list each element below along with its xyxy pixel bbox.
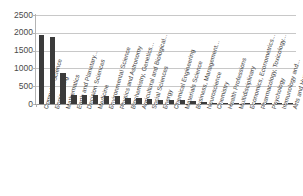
x-axis-tick-mark: [134, 104, 135, 107]
x-axis-tick-mark: [253, 104, 254, 107]
x-axis-tick-mark: [177, 104, 178, 107]
x-axis-tick-mark: [123, 104, 124, 107]
x-axis-tick-mark: [231, 104, 232, 107]
bar[interactable]: [39, 35, 44, 104]
y-axis-tick-label: 0: [3, 100, 33, 109]
y-axis-tick-mark: [32, 15, 35, 16]
gridline: [36, 51, 296, 52]
x-axis-tick-mark: [101, 104, 102, 107]
y-axis-tick-labels: 05001000150020002500: [0, 0, 33, 196]
x-axis-tick-mark: [199, 104, 200, 107]
y-axis-tick-label: 1500: [3, 46, 33, 55]
x-axis-tick-mark: [58, 104, 59, 107]
y-axis-tick-mark: [32, 33, 35, 34]
x-axis-tick-mark: [242, 104, 243, 107]
x-axis-tick-mark: [36, 104, 37, 107]
x-axis-tick-mark: [112, 104, 113, 107]
x-axis-tick-mark: [274, 104, 275, 107]
bar-chart: 05001000150020002500 Computer ScienceEng…: [0, 0, 303, 196]
x-axis-category-labels: Computer ScienceEngineeringMathematicsEa…: [36, 108, 296, 196]
y-axis-tick-mark: [32, 51, 35, 52]
gridline: [36, 15, 296, 16]
x-axis-tick-mark: [220, 104, 221, 107]
x-axis-tick-mark: [155, 104, 156, 107]
y-axis-tick-label: 500: [3, 82, 33, 91]
x-axis-tick-mark: [166, 104, 167, 107]
x-axis-tick-mark: [90, 104, 91, 107]
y-axis-tick-mark: [32, 68, 35, 69]
y-axis-tick-label: 1000: [3, 64, 33, 73]
y-axis-tick-label: 2500: [3, 11, 33, 20]
x-axis-tick-mark: [285, 104, 286, 107]
y-axis-tick-mark: [32, 104, 35, 105]
x-axis-tick-mark: [264, 104, 265, 107]
x-axis-tick-mark: [209, 104, 210, 107]
x-axis-tick-mark: [188, 104, 189, 107]
y-axis-tick-label: 2000: [3, 28, 33, 37]
y-axis-tick-mark: [32, 86, 35, 87]
x-axis-tick-mark: [69, 104, 70, 107]
x-axis-tick-mark: [296, 104, 297, 107]
x-axis-tick-mark: [79, 104, 80, 107]
x-axis-tick-mark: [47, 104, 48, 107]
x-axis-tick-mark: [144, 104, 145, 107]
